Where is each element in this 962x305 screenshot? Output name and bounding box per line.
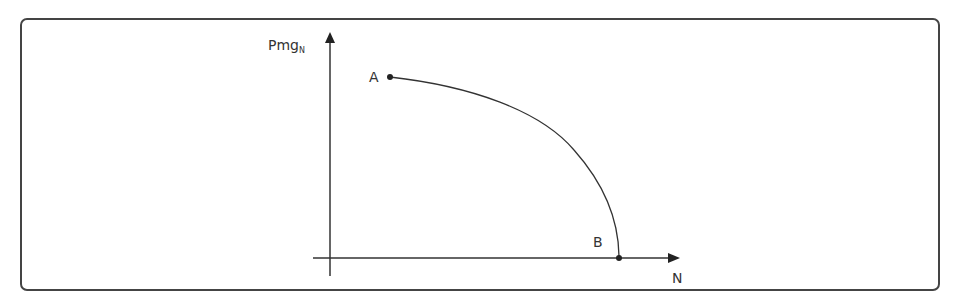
y-axis-arrow-icon: [325, 32, 335, 43]
point-a-label: A: [369, 70, 379, 84]
diagram-canvas: [0, 0, 962, 305]
y-axis-label-main: Pmg: [268, 37, 299, 53]
x-axis-arrow-icon: [668, 253, 680, 263]
point-b-dot: [616, 255, 622, 261]
x-axis-label: N: [672, 271, 682, 285]
y-axis-label-subscript: N: [299, 46, 305, 55]
y-axis-label: PmgN: [268, 38, 305, 52]
production-curve: [390, 77, 619, 258]
point-a-dot: [387, 74, 393, 80]
point-b-label: B: [593, 235, 603, 249]
